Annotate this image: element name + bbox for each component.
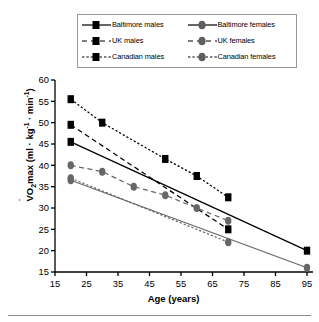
y-axis-title-sub: 2: [30, 184, 37, 188]
series-baltimore-males: [68, 138, 311, 255]
y-axis-title-sup2: -1: [23, 92, 30, 98]
data-point-marker: [225, 238, 231, 246]
axis-layer: [51, 80, 313, 276]
y-axis-title-mid: · min: [24, 97, 35, 122]
x-axis-title-wrap: Age (years): [0, 293, 319, 304]
data-point-marker: [68, 121, 74, 129]
y-tick-label: 55: [39, 96, 49, 107]
x-tick-label: 65: [207, 278, 217, 289]
y-tick-label: 25: [39, 224, 49, 235]
y-tick-label: 15: [39, 266, 49, 277]
series-line: [71, 165, 229, 220]
figure-vo2max-vs-age: Baltimore males Baltimore females: [0, 0, 319, 322]
data-point-marker: [68, 138, 74, 146]
x-tick-label: 35: [113, 278, 123, 289]
y-axis-title: ̇ VO2max (ml · kg-1 · min-1): [23, 70, 37, 220]
x-tick-label: 25: [81, 278, 91, 289]
y-tick-label: 40: [39, 160, 49, 171]
x-tick-label: 95: [302, 278, 312, 289]
series-line: [71, 180, 307, 267]
series-line: [71, 142, 307, 251]
data-point-marker: [225, 225, 231, 233]
y-axis-title-sup1: -1: [23, 123, 30, 129]
y-tick-label: 35: [39, 181, 49, 192]
data-point-marker: [304, 247, 310, 255]
data-point-marker: [131, 183, 137, 191]
series-line: [71, 178, 229, 242]
data-point-marker: [162, 155, 168, 163]
data-point-marker: [225, 193, 231, 201]
series-canadian-males: [68, 95, 232, 201]
x-tick-label: 85: [270, 278, 280, 289]
data-point-marker: [304, 264, 310, 272]
data-point-marker: [194, 172, 200, 180]
y-axis-title-v: V: [24, 195, 35, 201]
y-tick-label: 30: [39, 202, 49, 213]
data-point-marker: [68, 174, 74, 182]
y-tick-label: 20: [39, 245, 49, 256]
y-axis-title-rest: max (ml · kg: [24, 129, 35, 184]
footer-divider: [8, 315, 311, 316]
data-point-marker: [99, 168, 105, 176]
data-point-marker: [99, 119, 105, 127]
series-baltimore-females: [68, 176, 311, 271]
data-point-marker: [162, 191, 168, 199]
series-canadian-females: [68, 174, 232, 246]
series-line: [71, 99, 229, 197]
x-axis-title: Age (years): [148, 293, 200, 304]
y-axis-title-end: ): [24, 88, 35, 91]
data-point-marker: [225, 217, 231, 225]
series-uk-males: [68, 121, 232, 234]
y-tick-label: 60: [39, 74, 49, 85]
data-point-marker: [68, 161, 74, 169]
x-tick-label: 55: [176, 278, 186, 289]
data-point-marker: [68, 95, 74, 103]
plot-area: 15202530354045505560152535455565758595: [0, 0, 319, 322]
x-tick-label: 75: [239, 278, 249, 289]
y-tick-label: 50: [39, 117, 49, 128]
x-tick-label: 15: [50, 278, 60, 289]
y-tick-label: 45: [39, 138, 49, 149]
series-layer: [68, 95, 311, 272]
data-point-marker: [194, 204, 200, 212]
series-line: [71, 125, 229, 230]
x-tick-label: 45: [144, 278, 154, 289]
